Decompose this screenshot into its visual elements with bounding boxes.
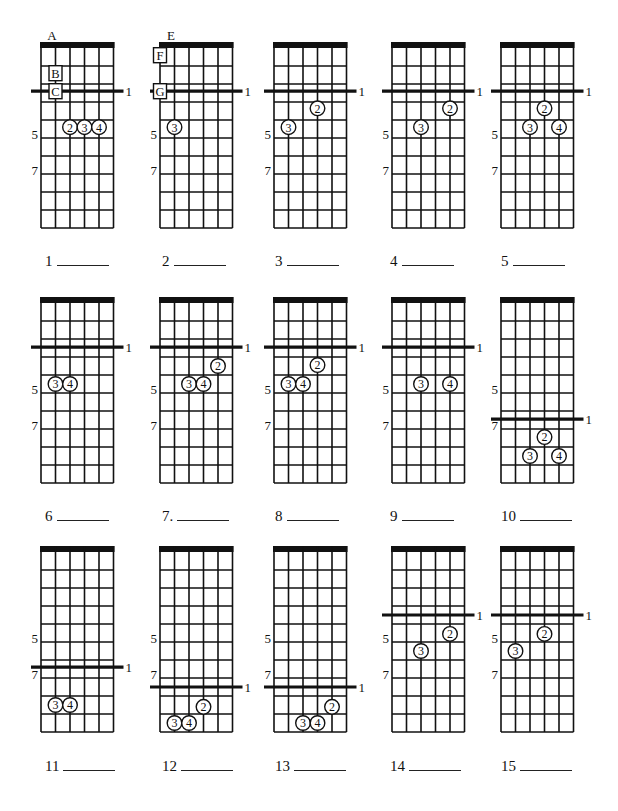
position-bar-label: 1: [126, 340, 133, 355]
answer-item[interactable]: 7.: [162, 508, 229, 525]
answer-item[interactable]: 11: [45, 758, 115, 775]
answer-number: 6: [45, 508, 53, 524]
finger-number: 3: [286, 377, 292, 391]
fret-number-label: 7: [265, 418, 272, 433]
answer-item[interactable]: 15: [501, 758, 572, 775]
answer-number: 5: [501, 253, 509, 269]
fret-number-label: 7: [265, 163, 272, 178]
answer-number: 10: [501, 508, 516, 524]
finger-number: 3: [527, 121, 533, 135]
position-bar-label: 1: [477, 84, 484, 99]
answer-item[interactable]: 4: [390, 253, 454, 270]
answer-blank-line[interactable]: [57, 264, 109, 266]
answer-item[interactable]: 13: [275, 758, 346, 775]
answer-blank-line[interactable]: [63, 769, 115, 771]
chord-diagram: 571234: [491, 42, 592, 228]
finger-number: 3: [513, 644, 519, 658]
answer-blank-line[interactable]: [174, 264, 226, 266]
answer-blank-line[interactable]: [513, 264, 565, 266]
answer-blank-line[interactable]: [402, 519, 454, 521]
fret-number-label: 5: [492, 127, 499, 142]
fret-number-label: 7: [151, 163, 158, 178]
fret-number-label: 7: [492, 163, 499, 178]
nut: [500, 297, 575, 303]
note-box-letter: G: [155, 85, 164, 99]
finger-number: 4: [186, 716, 192, 730]
finger-number: 2: [542, 627, 548, 641]
nut: [391, 297, 466, 303]
finger-number: 2: [329, 700, 335, 714]
position-bar-label: 1: [245, 680, 252, 695]
answer-item[interactable]: 2: [162, 253, 226, 270]
fret-number-label: 7: [383, 667, 390, 682]
position-bar-label: 1: [359, 84, 366, 99]
nut: [159, 297, 234, 303]
string-note-letter: E: [167, 28, 175, 43]
answer-blank-line[interactable]: [402, 264, 454, 266]
finger-number: 4: [315, 716, 321, 730]
finger-number: 4: [201, 377, 207, 391]
answer-item[interactable]: 3: [275, 253, 339, 270]
fret-number-label: 7: [32, 667, 39, 682]
chord-diagram: 57123: [491, 546, 592, 732]
answer-number: 14: [390, 758, 405, 774]
fret-number-label: 7: [265, 667, 272, 682]
nut: [500, 42, 575, 48]
finger-number: 2: [315, 102, 321, 116]
answer-blank-line[interactable]: [287, 264, 339, 266]
answer-item[interactable]: 10: [501, 508, 572, 525]
fret-number-label: 7: [151, 667, 158, 682]
nut: [40, 546, 115, 552]
chord-diagram: 571EFG3: [150, 28, 251, 228]
answer-item[interactable]: 12: [162, 758, 233, 775]
fret-number-label: 7: [32, 418, 39, 433]
answer-blank-line[interactable]: [409, 769, 461, 771]
answer-blank-line[interactable]: [57, 519, 109, 521]
fret-number-label: 7: [383, 163, 390, 178]
finger-number: 3: [418, 121, 424, 135]
chord-diagram: 57134: [31, 546, 132, 732]
answer-item[interactable]: 1: [45, 253, 109, 270]
fret-number-label: 5: [383, 631, 390, 646]
position-bar-label: 1: [586, 84, 593, 99]
answer-blank-line[interactable]: [520, 769, 572, 771]
fret-number-label: 5: [265, 382, 272, 397]
answer-blank-line[interactable]: [294, 769, 346, 771]
answer-item[interactable]: 8: [275, 508, 339, 525]
finger-number: 4: [300, 377, 306, 391]
fret-number-label: 5: [32, 631, 39, 646]
fret-number-label: 5: [492, 382, 499, 397]
answer-blank-line[interactable]: [181, 769, 233, 771]
answer-number: 3: [275, 253, 283, 269]
position-bar-label: 1: [126, 660, 133, 675]
position-bar-label: 1: [586, 608, 593, 623]
fret-number-label: 7: [32, 163, 39, 178]
fret-number-label: 5: [265, 631, 272, 646]
fret-number-label: 5: [151, 631, 158, 646]
finger-number: 2: [447, 102, 453, 116]
finger-number: 3: [300, 716, 306, 730]
answer-item[interactable]: 5: [501, 253, 565, 270]
finger-number: 2: [315, 358, 321, 372]
answer-blank-line[interactable]: [287, 519, 339, 521]
fret-number-label: 5: [383, 382, 390, 397]
answer-blank-line[interactable]: [177, 519, 229, 521]
chord-diagram: 571234: [264, 297, 365, 483]
nut: [391, 42, 466, 48]
fret-number-label: 5: [383, 127, 390, 142]
finger-number: 4: [447, 377, 453, 391]
position-bar-label: 1: [245, 340, 252, 355]
chord-diagram: 57123: [264, 42, 365, 228]
position-bar-label: 1: [359, 680, 366, 695]
finger-number: 2: [542, 430, 548, 444]
answer-item[interactable]: 6: [45, 508, 109, 525]
chord-diagram: 57134: [382, 297, 483, 483]
nut: [273, 297, 348, 303]
position-bar-label: 1: [359, 340, 366, 355]
answer-item[interactable]: 14: [390, 758, 461, 775]
answer-item[interactable]: 9: [390, 508, 454, 525]
position-bar-label: 1: [477, 608, 484, 623]
finger-number: 2: [542, 102, 548, 116]
chord-worksheet: 571ABC234571EFG3571235712357123457134571…: [0, 0, 618, 811]
answer-blank-line[interactable]: [520, 519, 572, 521]
